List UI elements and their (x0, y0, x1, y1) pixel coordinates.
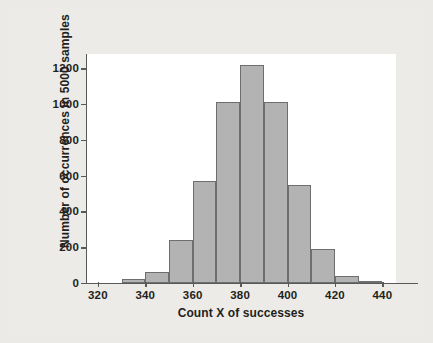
x-axis-tick (98, 282, 99, 287)
y-axis-tick (81, 211, 86, 212)
x-axis-tick (240, 282, 241, 287)
x-axis-tick (288, 282, 289, 287)
x-axis-tick (382, 282, 383, 287)
histogram-bars (86, 54, 418, 283)
x-axis-tick-label: 340 (135, 289, 155, 301)
x-axis-tick (145, 282, 146, 287)
x-axis-tick-label: 420 (325, 289, 345, 301)
x-axis-tick-label: 380 (230, 289, 250, 301)
y-axis-tick (81, 68, 86, 69)
y-axis-tick (81, 104, 86, 105)
y-axis-title: Number of occurrences in 5000 samples (58, 6, 72, 256)
x-axis-tick (335, 282, 336, 287)
y-axis-tick (81, 176, 86, 177)
y-axis-tick (81, 247, 86, 248)
figure-paper: 020040060080010001200 320340360380400420… (8, 8, 425, 335)
x-axis-tick-label: 320 (88, 289, 108, 301)
histogram-bar (193, 181, 217, 283)
histogram-bar (240, 65, 264, 283)
y-axis-tick (81, 140, 86, 141)
histogram-bar (264, 102, 288, 283)
y-axis-tick-label: 0 (72, 277, 79, 289)
histogram-bar (311, 249, 335, 283)
x-axis-title: Count X of successes (86, 306, 396, 320)
histogram-bar (216, 102, 240, 283)
x-axis-tick-label: 440 (373, 289, 393, 301)
x-axis-tick-label: 360 (183, 289, 203, 301)
histogram-figure: 020040060080010001200 320340360380400420… (0, 0, 433, 343)
x-axis-tick (193, 282, 194, 287)
histogram-bar (169, 240, 193, 283)
histogram-bar (288, 185, 312, 283)
x-axis-tick-label: 400 (278, 289, 298, 301)
